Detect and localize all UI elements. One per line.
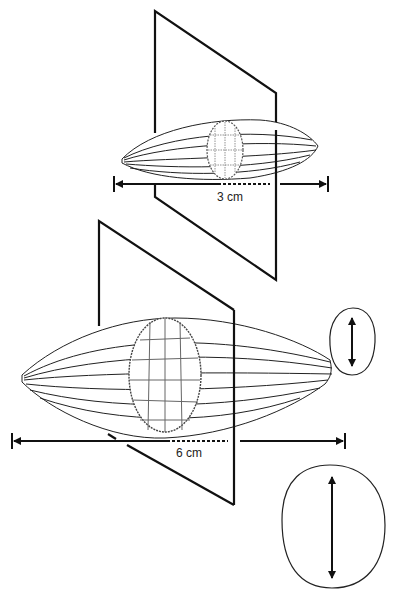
small-cross-section: [330, 308, 375, 375]
small-pod-group: 3 cm: [114, 11, 328, 280]
large-pod-group: 6 cm: [12, 221, 345, 505]
large-length-label: 6 cm: [176, 446, 202, 460]
small-length-label: 3 cm: [217, 190, 243, 204]
large-cross-section: [282, 465, 385, 588]
pod-cross-section-diagram: 3 cm: [0, 0, 400, 600]
